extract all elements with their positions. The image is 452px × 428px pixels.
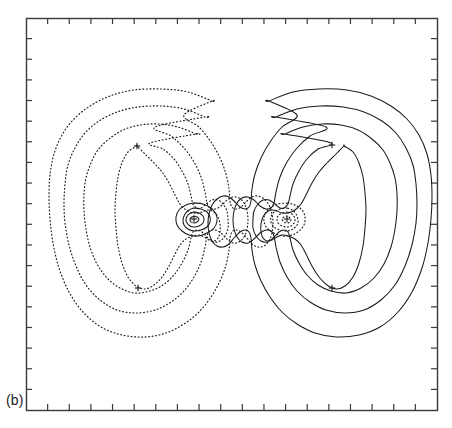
extrema-markers <box>134 142 335 291</box>
contour-positive-lobe-2 <box>253 124 398 293</box>
contour-negative-lobe-2 <box>84 124 229 293</box>
contour-negative-outer-lobe-4 <box>49 89 273 337</box>
contour-lines <box>49 89 432 337</box>
contour-figure: (b) <box>0 0 452 428</box>
contour-negative-lobe-3 <box>64 106 248 313</box>
contour-negative-lobe-1-lobed <box>115 145 220 289</box>
axes-frame <box>27 19 438 411</box>
contour-positive-outer-lobe-4 <box>208 89 432 337</box>
axis-ticks <box>26 18 437 410</box>
panel-label: (b) <box>6 392 24 408</box>
contour-positive-lobe-1-lobed <box>261 145 366 289</box>
contour-positive-lobe-3 <box>233 106 417 313</box>
contour-plot-canvas <box>0 0 452 428</box>
